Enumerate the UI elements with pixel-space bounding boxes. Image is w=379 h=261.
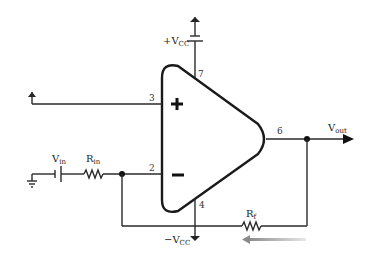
rin-label: Rin (86, 153, 101, 166)
output-arrow-icon (343, 134, 354, 144)
vcc-pos-label: +VCC (163, 35, 189, 48)
pin-6-label: 6 (277, 126, 283, 136)
supply-terminal-icon (190, 236, 200, 241)
vcc-neg-label: −VCC (164, 234, 190, 247)
pin-7-label: 7 (198, 69, 204, 79)
rf-label: Rf (246, 208, 258, 221)
rf-resistor (242, 222, 261, 230)
opamp-circuit-diagram: +VCC 7 3 Vin Rin 2 −VCC 4 (0, 0, 379, 261)
vout-label: Vout (327, 122, 347, 135)
feedback-path (122, 222, 307, 230)
vin-label: Vin (51, 153, 66, 166)
rin-resistor (84, 170, 103, 178)
pin-3-label: 3 (149, 93, 155, 103)
noninverting-input-wire (28, 92, 162, 104)
inverting-input-path (27, 166, 162, 226)
current-arrow-icon (242, 235, 306, 244)
pin-2-label: 2 (149, 163, 155, 173)
output-wire (266, 134, 354, 226)
opamp-body (162, 65, 264, 212)
plus-symbol (171, 98, 183, 110)
pin-4-label: 4 (199, 200, 205, 210)
